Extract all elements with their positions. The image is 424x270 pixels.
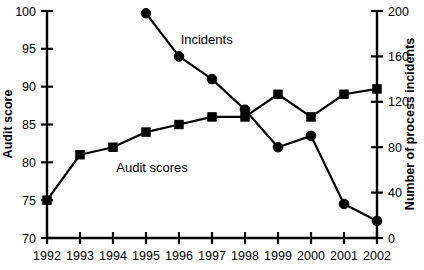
series-annotation-label: Incidents: [181, 32, 234, 47]
y-axis-left-tick-label: 85: [22, 118, 36, 132]
y-axis-left-tick-label: 70: [22, 232, 36, 246]
data-point-marker: [175, 120, 183, 128]
chart-container: 707580859095100 04080120160200 199219931…: [0, 0, 424, 270]
data-point-marker: [142, 128, 150, 136]
x-axis-tick-label: 2001: [330, 249, 358, 263]
y-axis-left-title: Audit score: [1, 90, 15, 159]
data-point-marker: [307, 113, 315, 121]
y-axis-right-tick-label: 200: [388, 5, 409, 19]
data-point-marker: [43, 196, 51, 204]
x-axis-tick-label: 1997: [198, 249, 226, 263]
data-point-marker: [141, 8, 151, 18]
y-axis-left-tick-label: 95: [22, 42, 36, 56]
x-axis-tick-label: 1996: [165, 249, 193, 263]
y-axis-left-tick-label: 100: [15, 5, 36, 19]
data-point-marker: [174, 52, 184, 62]
data-point-marker: [373, 85, 381, 93]
data-point-marker: [207, 74, 217, 84]
data-point-marker: [273, 142, 283, 152]
data-point-marker: [339, 199, 349, 209]
x-axis-tick-label: 2000: [297, 249, 325, 263]
data-point-marker: [240, 105, 250, 115]
y-axis-right-tick-label: 80: [388, 141, 402, 155]
y-axis-right-title: Number of process incidents: [403, 38, 417, 210]
x-axis-tick-label: 1995: [132, 249, 160, 263]
x-axis-tick-label: 2002: [363, 249, 391, 263]
x-axis-tick-label: 1994: [99, 249, 127, 263]
y-axis-left-tick-label: 75: [22, 194, 36, 208]
data-point-marker: [208, 113, 216, 121]
x-axis-ticks: 1992199319941995199619971998199920002001…: [33, 232, 391, 263]
dual-axis-line-chart: 707580859095100 04080120160200 199219931…: [0, 0, 424, 270]
x-axis-tick-label: 1992: [33, 249, 61, 263]
x-axis-tick-label: 1993: [66, 249, 94, 263]
series-incidents: [141, 8, 382, 225]
series-line-0: [47, 89, 377, 200]
data-point-marker: [372, 216, 382, 226]
x-axis-tick-label: 1998: [231, 249, 259, 263]
data-point-marker: [340, 90, 348, 98]
y-axis-right-tick-label: 0: [388, 232, 395, 246]
data-point-marker: [76, 151, 84, 159]
y-axis-left-tick-label: 90: [22, 80, 36, 94]
data-point-marker: [306, 131, 316, 141]
data-point-marker: [109, 143, 117, 151]
y-axis-left-tick-label: 80: [22, 156, 36, 170]
x-axis-tick-label: 1999: [264, 249, 292, 263]
series-annotation-label: Audit scores: [116, 160, 188, 175]
series-audit-scores: [43, 85, 381, 205]
y-axis-right-tick-label: 40: [388, 186, 402, 200]
data-point-marker: [274, 90, 282, 98]
